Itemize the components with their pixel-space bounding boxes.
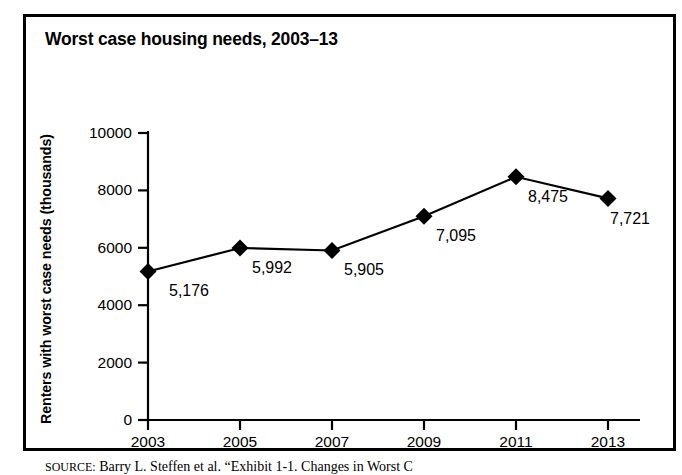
y-tick-label-8000: 8000 bbox=[66, 181, 132, 199]
data-label-2009: 7,095 bbox=[436, 227, 476, 245]
source-note: SOURCE: Barry L. Steffen et al. “Exhibit… bbox=[45, 458, 665, 475]
y-tick-label-10000: 10000 bbox=[66, 124, 132, 142]
x-tick-label-2005: 2005 bbox=[200, 433, 280, 451]
source-text: Barry L. Steffen et al. “Exhibit 1-1. Ch… bbox=[96, 459, 413, 474]
x-tick-label-2003: 2003 bbox=[108, 433, 188, 451]
y-tick-label-6000: 6000 bbox=[66, 239, 132, 257]
x-tick-label-2013: 2013 bbox=[568, 433, 648, 451]
data-label-2003: 5,176 bbox=[169, 282, 209, 300]
figure-frame bbox=[23, 14, 676, 451]
y-axis-title: Renters with worst case needs (thousands… bbox=[36, 139, 56, 424]
x-tick-label-2011: 2011 bbox=[476, 433, 556, 451]
source-label: SOURCE: bbox=[45, 460, 96, 474]
x-tick-label-2007: 2007 bbox=[292, 433, 372, 451]
x-tick-label-2009: 2009 bbox=[384, 433, 464, 451]
data-label-2007: 5,905 bbox=[344, 261, 384, 279]
data-label-2011: 8,475 bbox=[528, 188, 568, 206]
chart-title: Worst case housing needs, 2003–13 bbox=[45, 28, 338, 50]
data-label-2013: 7,721 bbox=[610, 210, 650, 228]
y-tick-label-0: 0 bbox=[66, 411, 132, 429]
data-label-2005: 5,992 bbox=[252, 259, 292, 277]
y-tick-label-2000: 2000 bbox=[66, 354, 132, 372]
y-tick-label-4000: 4000 bbox=[66, 296, 132, 314]
